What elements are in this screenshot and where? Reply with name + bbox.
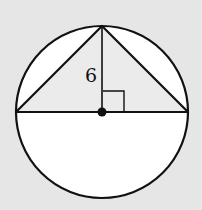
- center-point: [98, 108, 107, 117]
- geometry-figure: 6: [0, 0, 202, 210]
- height-label: 6: [85, 64, 97, 86]
